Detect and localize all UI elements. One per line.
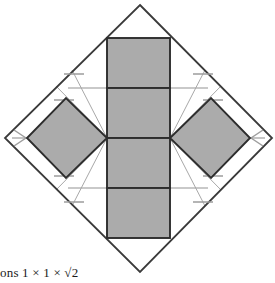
net-of-box-diagram [0, 0, 275, 283]
geometry-figure: ons 1 × 1 × √2 [0, 0, 275, 283]
figure-caption: ons 1 × 1 × √2 [0, 266, 275, 280]
strip-rect-2 [107, 88, 170, 138]
strip-rect-4 [107, 188, 170, 238]
central-strip-group [107, 38, 170, 238]
strip-rect-1 [107, 38, 170, 88]
strip-rect-3 [107, 138, 170, 188]
